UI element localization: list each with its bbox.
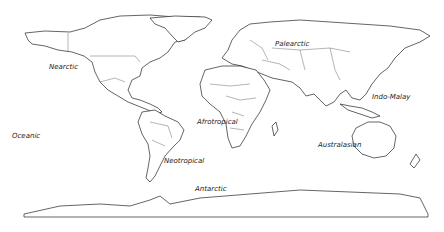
madagascar-landmass xyxy=(272,122,278,136)
africa-landmass xyxy=(200,66,270,148)
realm-label-indo-malay: Indo-Malay xyxy=(372,93,410,101)
realm-label-palearctic: Palearctic xyxy=(275,40,309,48)
australia-landmass xyxy=(352,122,396,158)
realm-label-nearctic: Nearctic xyxy=(49,63,78,71)
antarctica-landmass xyxy=(24,190,428,217)
realm-label-neotropical: Neotropical xyxy=(164,157,204,165)
realm-label-australasian: Australasian xyxy=(318,141,361,149)
realm-label-oceanic: Oceanic xyxy=(12,132,40,140)
new-zealand-landmass xyxy=(410,154,420,168)
southeast-asia-islands xyxy=(340,104,380,118)
south-america-landmass xyxy=(138,110,184,182)
realm-label-afrotropical: Afrotropical xyxy=(197,118,238,126)
realm-label-antarctic: Antarctic xyxy=(195,185,227,193)
world-map xyxy=(0,0,444,232)
